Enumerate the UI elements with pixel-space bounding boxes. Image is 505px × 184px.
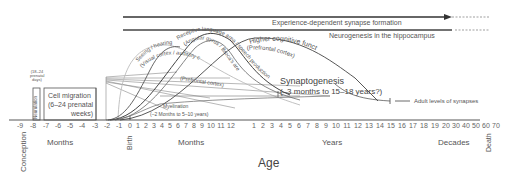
tick: 14 — [376, 122, 384, 129]
tick: 16 — [398, 122, 406, 129]
conception-label: Conception — [20, 132, 28, 172]
tick: 13 — [365, 122, 373, 129]
tick: -9 — [17, 122, 23, 129]
tick: 3 — [270, 122, 274, 129]
cell-migration-label: Cell migration (6–24 prenatal weeks) — [48, 91, 93, 118]
tick: 1 — [136, 122, 140, 129]
tick: 11 — [343, 122, 350, 129]
tick: -8 — [30, 122, 36, 129]
angular-broca-label: (Angular gyrus / Broca's area) — [0, 0, 241, 72]
myelination-range: (–2 Months to 5–10 years) — [150, 112, 208, 117]
prefrontal-curve-label: (Prefrontal cortex) — [247, 44, 296, 58]
tick: -6 — [55, 122, 61, 129]
years-label: Years — [322, 139, 342, 147]
decades-label: Decades — [438, 139, 470, 147]
tick: -3 — [92, 122, 98, 129]
tick: 30 — [452, 122, 460, 129]
tick: 15 — [387, 122, 395, 129]
tick: 2 — [261, 122, 265, 129]
tick: 9 — [324, 122, 328, 129]
tick: 5 — [288, 122, 292, 129]
tick: 6 — [176, 122, 180, 129]
tick: 1 — [252, 122, 256, 129]
tick: 3 — [152, 122, 156, 129]
tick: 20 — [442, 122, 450, 129]
tick: 7 — [184, 122, 188, 129]
tick: 0 — [128, 122, 132, 129]
tick: 40 — [462, 122, 470, 129]
adult-levels-label: Adult levels of synapses — [414, 98, 478, 104]
neurulation-timing: (18–24 prenatal days) — [30, 70, 44, 82]
tick: 60 — [482, 122, 490, 129]
tick: 8 — [192, 122, 196, 129]
visual-auditory-label: (Visual cortex / auditory cortex) — [0, 0, 201, 69]
svg-text:(Prefrontal cortex): (Prefrontal cortex) — [247, 44, 296, 58]
tick: 17 — [409, 122, 417, 129]
tick: 4 — [160, 122, 164, 129]
tick: -2 — [104, 122, 110, 129]
svg-text:(Visual cortex / auditory cort: (Visual cortex / auditory cortex) — [0, 0, 201, 69]
tick: 18 — [420, 122, 428, 129]
neurulation-label: Neurulation — [34, 96, 39, 119]
tick: 2 — [144, 122, 148, 129]
tick: 7 — [306, 122, 310, 129]
tick: 9 — [200, 122, 204, 129]
prenatal-months-label: Months — [47, 139, 73, 147]
tick: -4 — [79, 122, 85, 129]
experience-bar-label: Experience-dependent synapse formation — [272, 19, 402, 26]
tick: 12 — [227, 122, 235, 129]
tick: 5 — [168, 122, 172, 129]
arrow-head-icon — [444, 14, 452, 20]
death-label: Death — [485, 133, 492, 152]
age-axis-title: Age — [258, 157, 279, 169]
tick: 10 — [207, 122, 215, 129]
tick: -1 — [116, 122, 122, 129]
tick: 12 — [354, 122, 362, 129]
synaptogenesis-label: Synaptogenesis — [280, 77, 344, 86]
postnatal-months-label: Months — [178, 139, 204, 147]
myelination-label: Myelination — [163, 104, 188, 109]
birth-label: Birth — [126, 136, 133, 150]
tick: 10 — [332, 122, 340, 129]
tick: 11 — [217, 122, 224, 129]
tick: 70 — [492, 122, 500, 129]
tick: 6 — [297, 122, 301, 129]
synaptogenesis-range: (–3 months to 15–18 years?) — [280, 88, 382, 96]
tick: -5 — [67, 122, 73, 129]
tick: 4 — [279, 122, 283, 129]
tick: 8 — [315, 122, 319, 129]
tick: -7 — [43, 122, 49, 129]
tick: 19 — [431, 122, 439, 129]
svg-text:(Angular gyrus / Broca's area): (Angular gyrus / Broca's area) — [0, 0, 241, 72]
brain-development-diagram: Seeing / hearing (Visual cortex / audito… — [0, 0, 505, 184]
tick: 50 — [472, 122, 480, 129]
neurogenesis-bar-label: Neurogenesis in the hippocampus — [329, 32, 435, 39]
